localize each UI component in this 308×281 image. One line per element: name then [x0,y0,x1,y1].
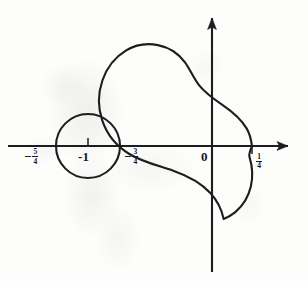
tick-label-numerator: 1 [256,153,262,161]
real-axis [8,142,288,151]
tick-label-numerator: 5 [33,148,39,156]
tick-label-minus-five-fourths: − 5 4 [24,148,38,165]
figure-canvas [0,0,308,281]
tick-label-denominator: 4 [133,157,139,165]
tick-label-minus-one: -1 [78,150,89,163]
tick-label-sign: − [124,150,131,163]
tick-label-minus-three-fourths: − 3 4 [124,148,138,165]
tick-label-denominator: 4 [33,157,39,165]
tick-label-sign: − [24,150,31,163]
main-cardioid-curve [99,44,252,219]
tick-label-zero: 0 [201,150,208,163]
tick-label-numerator: 3 [133,148,139,156]
tick-label-denominator: 4 [256,162,262,170]
mandelbrot-figure: − 5 4 -1 − 3 4 0 1 4 [0,0,308,281]
tick-label-one-quarter: 1 4 [255,148,262,170]
